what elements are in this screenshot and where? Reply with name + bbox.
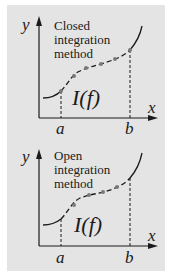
- y-axis-arrow-icon: [36, 149, 42, 159]
- function-curve-left: [43, 91, 61, 98]
- upper-bound-label: b: [125, 119, 134, 138]
- method-label-line3: method: [54, 46, 93, 61]
- integral-label: I(f): [71, 85, 100, 110]
- lower-bound-label: a: [56, 119, 65, 138]
- method-label-line2: integration: [54, 32, 111, 47]
- y-axis-label: y: [20, 147, 30, 166]
- x-axis-label: x: [147, 98, 156, 117]
- integration-diagrams: y Closed integration method I(f) x a b y…: [0, 0, 176, 278]
- y-axis-arrow-icon: [36, 16, 42, 26]
- x-axis-label: x: [147, 226, 156, 245]
- method-label-line1: Closed: [54, 18, 91, 33]
- method-label-line3: method: [54, 176, 93, 191]
- method-label-line1: Open: [54, 148, 83, 163]
- lower-bound-label: a: [56, 248, 65, 267]
- method-label-line2: integration: [54, 162, 111, 177]
- upper-bound-label: b: [125, 248, 134, 267]
- function-curve-left: [43, 219, 61, 225]
- function-curve-right: [130, 26, 142, 50]
- y-axis-label: y: [20, 15, 30, 34]
- integral-label: I(f): [73, 212, 102, 237]
- function-curve-right: [130, 153, 142, 178]
